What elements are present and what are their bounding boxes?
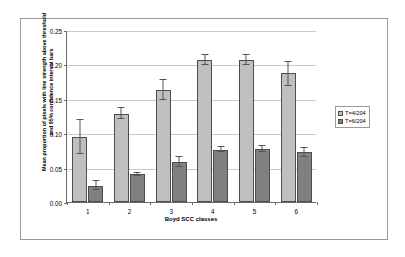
bar-group	[234, 31, 276, 202]
x-axis-title: Boyd SCC classes	[66, 216, 316, 222]
error-bar	[255, 146, 270, 202]
legend-swatch-icon	[338, 111, 343, 116]
error-bar	[156, 80, 171, 202]
y-tick-label: 0.00	[50, 200, 62, 207]
error-bar	[114, 108, 129, 202]
y-tick-label: 0.05	[50, 165, 62, 172]
y-axis-title: Mean proportion of pixels with line stre…	[41, 12, 67, 172]
x-tick-mark	[192, 202, 193, 205]
error-bar	[72, 120, 87, 202]
error-bar	[197, 55, 212, 202]
x-tick-mark	[109, 202, 110, 205]
x-tick-label: 6	[294, 208, 298, 215]
x-tick-mark	[317, 202, 318, 205]
error-bar	[172, 157, 187, 202]
x-tick-mark	[234, 202, 235, 205]
bar-group	[150, 31, 192, 202]
y-tick-label: 0.15	[50, 96, 62, 103]
legend-item[interactable]: T=4/204	[338, 109, 366, 117]
error-bar	[88, 181, 103, 202]
x-tick-mark	[150, 202, 151, 205]
error-bar	[281, 62, 296, 202]
x-tick-label: 1	[86, 208, 90, 215]
legend-item-label: T=6/204	[345, 118, 366, 124]
y-tick-label: 0.25	[50, 28, 62, 35]
bar-group	[109, 31, 151, 202]
bar-group	[67, 31, 109, 202]
x-tick-label: 5	[253, 208, 257, 215]
y-tick-label: 0.10	[50, 131, 62, 138]
legend-item[interactable]: T=6/204	[338, 117, 366, 125]
x-tick-mark	[275, 202, 276, 205]
y-tick-label: 0.20	[50, 62, 62, 69]
plot-area: 0.000.050.100.150.200.25123456	[66, 31, 316, 203]
legend-item-label: T=4/204	[345, 110, 366, 116]
legend-swatch-icon	[338, 119, 343, 124]
x-tick-label: 4	[211, 208, 215, 215]
error-bar	[130, 173, 145, 202]
error-bar	[239, 55, 254, 202]
bar-group	[192, 31, 234, 202]
chart-frame: Mean proportion of pixels with line stre…	[20, 18, 388, 240]
error-bar	[213, 147, 228, 202]
x-tick-label: 3	[169, 208, 173, 215]
bar-group	[275, 31, 317, 202]
x-tick-mark	[67, 202, 68, 205]
chart-legend: T=4/204T=6/204	[335, 106, 370, 128]
error-bar	[297, 148, 312, 202]
x-tick-label: 2	[128, 208, 132, 215]
